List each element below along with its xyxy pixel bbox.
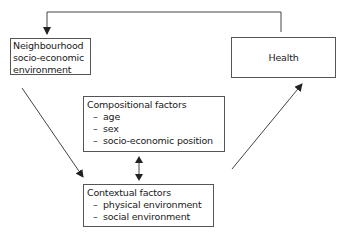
bullet-dash: – [93,111,103,123]
item-text: age [103,111,120,122]
bullet-dash: – [93,211,103,223]
contextual-item: –social environment [87,211,210,223]
item-text: physical environment [103,199,201,210]
neighbourhood-line-1: Neighbourhood [13,40,88,52]
arrowhead-up-icon [135,156,143,163]
neighbourhood-node: Neighbourhood socio-economic environment [10,38,91,75]
bullet-dash: – [93,123,103,135]
health-label: Health [269,52,299,64]
feedback-loop-line [47,12,281,34]
contextual-to-health-arrow [232,84,302,169]
neighbourhood-line-3: environment [13,64,88,76]
contextual-title: Contextual factors [87,187,210,199]
compositional-item: –socio-economic position [87,135,221,147]
item-text: sex [103,123,119,134]
contextual-factors-node: Contextual factors –physical environment… [83,184,214,227]
neighbourhood-to-contextual-arrow [22,88,83,177]
health-node: Health [231,37,336,78]
neighbourhood-line-2: socio-economic [13,52,88,64]
compositional-title: Compositional factors [87,99,221,111]
item-text: social environment [103,211,190,222]
bullet-dash: – [93,199,103,211]
arrowhead-down-icon [135,174,143,181]
compositional-factors-node: Compositional factors –age –sex –socio-e… [83,96,225,152]
compositional-item: –age [87,111,221,123]
compositional-item: –sex [87,123,221,135]
bullet-dash: – [93,135,103,147]
contextual-item: –physical environment [87,199,210,211]
item-text: socio-economic position [103,135,213,146]
